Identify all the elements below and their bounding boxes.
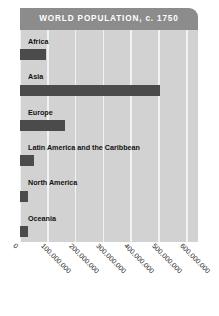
bar-group: North America — [20, 171, 198, 206]
chart-figure: WORLD POPULATION, c. 1750 AfricaAsiaEuro… — [0, 0, 219, 316]
bar — [20, 49, 46, 60]
plot-area: AfricaAsiaEuropeLatin America and the Ca… — [20, 30, 198, 242]
bar-category-label: Latin America and the Caribbean — [28, 144, 140, 151]
bar-category-label: Oceania — [28, 215, 56, 222]
bar — [20, 191, 28, 202]
bar — [20, 85, 160, 96]
x-tick-label: 600,000,000 — [179, 242, 211, 274]
bar — [20, 155, 34, 166]
bar-category-label: Africa — [28, 38, 48, 45]
bar-group: Europe — [20, 101, 198, 136]
bar — [20, 120, 65, 131]
x-tick-label: 0 — [12, 242, 20, 250]
bar-category-label: Europe — [28, 109, 53, 116]
bar-group: Oceania — [20, 207, 198, 242]
bar-category-label: Asia — [28, 73, 43, 80]
bar — [20, 226, 28, 237]
bar-group: Africa — [20, 30, 198, 65]
x-axis-tick-labels: 0100,000,000200,000,000300,000,000400,00… — [0, 242, 219, 316]
bar-group: Latin America and the Caribbean — [20, 136, 198, 171]
bar-group: Asia — [20, 65, 198, 100]
chart-title-bar: WORLD POPULATION, c. 1750 — [20, 8, 198, 30]
chart-title: WORLD POPULATION, c. 1750 — [39, 15, 178, 23]
bar-category-label: North America — [28, 179, 77, 186]
